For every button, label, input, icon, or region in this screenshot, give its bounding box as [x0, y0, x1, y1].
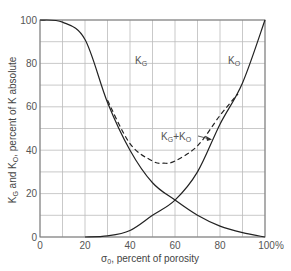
- y-axis-title: KG and KO, percent of K absolute: [7, 56, 19, 203]
- x-tick-label: 80: [214, 240, 226, 251]
- kg-curve-label: KG: [135, 55, 147, 67]
- sum-curve-label: KG+KO: [161, 131, 192, 143]
- y-tick-label: 40: [26, 145, 38, 156]
- y-tick-label: 100: [20, 15, 37, 26]
- x-tick-label: 20: [79, 240, 91, 251]
- x-tick-label: 40: [124, 240, 136, 251]
- x-tick-label: 0: [37, 240, 43, 251]
- y-tick-label: 60: [26, 101, 38, 112]
- chart: 020406080100%020406080100 KG KO KG+KO σ0…: [0, 0, 291, 271]
- ko-curve-label: KO: [228, 55, 241, 67]
- x-axis-title: σ0, percent of porosity: [101, 253, 199, 265]
- y-tick-label: 0: [31, 232, 37, 243]
- x-tick-label: 60: [169, 240, 181, 251]
- x-tick-label: 100%: [258, 240, 284, 251]
- y-tick-label: 20: [26, 188, 38, 199]
- y-tick-label: 80: [26, 58, 38, 69]
- grid: [40, 20, 265, 237]
